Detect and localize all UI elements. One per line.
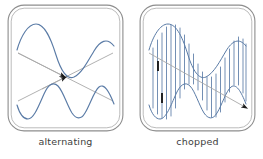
sweep-arrow-group <box>18 53 113 101</box>
caption-alternating: alternating <box>0 136 131 148</box>
trace-channel-1-upper <box>149 24 246 78</box>
trace-channel-2-lower <box>17 84 114 119</box>
oscilloscope-display-modes-figure: alternating <box>0 0 263 159</box>
panel-alternating <box>7 4 124 132</box>
panel-chopped <box>139 4 256 132</box>
chop-marker-group <box>158 61 162 103</box>
plot-chopped <box>144 9 251 127</box>
trace-channel-1-upper <box>17 24 114 78</box>
caption-chopped: chopped <box>132 136 263 148</box>
plot-alternating <box>12 9 119 127</box>
trace-channel-2-lower <box>149 84 246 119</box>
